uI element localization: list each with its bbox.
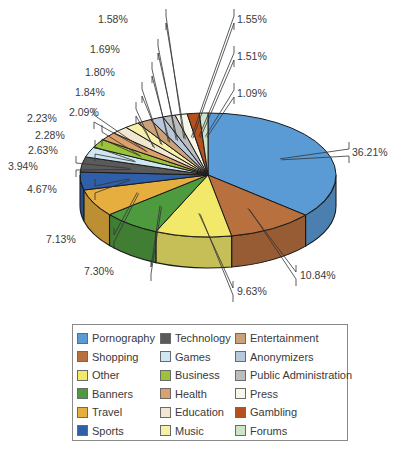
swatch-icon [235,388,246,399]
swatch-icon [160,407,171,418]
legend-label: Games [175,351,210,363]
legend-label: Sports [92,425,124,437]
legend-label: Shopping [92,351,139,363]
legend-item-gambling: Gambling [235,405,297,419]
percent-label: 7.30% [84,265,114,277]
legend-label: Business [175,369,220,381]
legend-item-health: Health [160,387,207,401]
legend-label: Entertainment [250,332,318,344]
percent-label: 7.13% [46,233,76,245]
percent-label: 2.23% [27,112,57,124]
legend-label: Banners [92,388,133,400]
legend-label: Pornography [92,332,155,344]
swatch-icon [77,333,88,344]
percent-label: 2.63% [28,144,58,156]
percent-label: 10.84% [300,269,336,281]
legend-item-pornography: Pornography [77,331,155,345]
swatch-icon [160,388,171,399]
legend-item-technology: Technology [160,331,231,345]
percent-label: 2.09% [69,106,99,118]
swatch-icon [235,351,246,362]
legend-label: Anonymizers [250,351,314,363]
legend-item-education: Education [160,405,224,419]
legend-label: Health [175,388,207,400]
legend-label: Press [250,388,278,400]
swatch-icon [235,425,246,436]
percent-label: 1.55% [237,13,267,25]
swatch-icon [160,370,171,381]
pie-chart: 36.21%10.84%9.63%7.30%7.13%4.67%3.94%2.6… [0,0,396,320]
percent-label: 4.67% [27,183,57,195]
legend-item-shopping: Shopping [77,350,139,364]
legend-label: Forums [250,425,287,437]
percent-label: 1.80% [85,66,115,78]
percent-label: 2.28% [35,129,65,141]
swatch-icon [77,425,88,436]
swatch-icon [235,333,246,344]
percent-label: 1.69% [90,43,120,55]
legend-label: Education [175,406,224,418]
legend-item-anonymizers: Anonymizers [235,350,314,364]
swatch-icon [235,407,246,418]
swatch-icon [77,407,88,418]
legend-label: Music [175,425,204,437]
percent-label: 1.84% [75,86,105,98]
legend-label: Other [92,369,120,381]
legend-item-entertainment: Entertainment [235,331,318,345]
percent-label: 1.09% [237,87,267,99]
legend-item-forums: Forums [235,424,287,438]
swatch-icon [160,333,171,344]
legend-item-business: Business [160,368,220,382]
legend-item-sports: Sports [77,424,124,438]
legend-label: Public Administration [250,369,352,381]
legend: Pornography Shopping Other Banners Trave… [72,324,348,441]
legend-item-music: Music [160,424,204,438]
swatch-icon [77,351,88,362]
legend-item-banners: Banners [77,387,133,401]
swatch-icon [160,351,171,362]
percent-label: 9.63% [237,285,267,297]
percent-label: 1.58% [98,13,128,25]
swatch-icon [235,370,246,381]
swatch-icon [77,388,88,399]
percent-label: 36.21% [352,146,388,158]
swatch-icon [160,425,171,436]
legend-item-other: Other [77,368,120,382]
legend-item-games: Games [160,350,210,364]
legend-item-travel: Travel [77,405,122,419]
legend-label: Gambling [250,406,297,418]
swatch-icon [77,370,88,381]
legend-label: Travel [92,406,122,418]
percent-label: 1.51% [237,50,267,62]
legend-item-public-administration: Public Administration [235,368,352,382]
legend-label: Technology [175,332,231,344]
percent-label: 3.94% [8,160,38,172]
legend-item-press: Press [235,387,278,401]
